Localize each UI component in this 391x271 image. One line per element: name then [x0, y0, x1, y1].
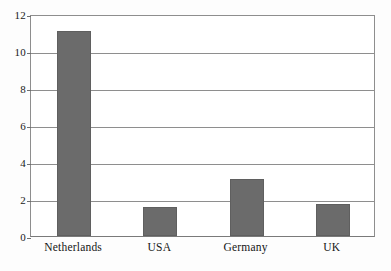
y-tick-label: 2 — [2, 195, 26, 206]
y-tick-label: 0 — [2, 232, 26, 243]
x-tick-label: Germany — [224, 241, 268, 254]
y-tick-label: 6 — [2, 121, 26, 132]
bar-chart: 024681012 NetherlandsUSAGermanyUK — [0, 0, 391, 271]
bar — [143, 207, 177, 236]
x-tick-label: Netherlands — [44, 241, 102, 254]
bar — [316, 204, 350, 236]
bars-group — [31, 16, 374, 236]
y-tick-label: 10 — [2, 47, 26, 58]
y-tick-label: 12 — [2, 10, 26, 21]
x-tick-label: USA — [148, 241, 172, 254]
bar — [230, 179, 264, 236]
x-tick-label: UK — [323, 241, 340, 254]
y-tick-label: 8 — [2, 84, 26, 95]
y-tick-label: 4 — [2, 158, 26, 169]
x-axis: NetherlandsUSAGermanyUK — [30, 241, 375, 263]
bar — [57, 31, 91, 236]
plot-area — [30, 15, 375, 237]
y-tick-mark — [27, 238, 31, 239]
y-axis: 024681012 — [0, 0, 26, 271]
